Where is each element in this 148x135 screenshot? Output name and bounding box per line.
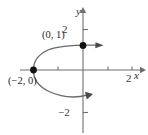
parabola-upper-branch <box>33 45 99 70</box>
point-label-neg2-0: (−2, 0) <box>8 76 37 87</box>
y-tick-label-negative-2: −2 <box>58 107 70 118</box>
parabola-upper-arrowhead-icon <box>95 42 103 48</box>
x-axis-arrowhead-icon <box>140 67 146 73</box>
y-axis-label: y <box>76 6 81 17</box>
parabola-lower-branch <box>33 70 87 97</box>
x-axis-label: x <box>134 70 139 81</box>
graph-canvas <box>0 0 148 135</box>
parabola-figure: y x 2 −2 2 (0, 1) (−2, 0) <box>0 0 148 135</box>
point-label-0-1: (0, 1) <box>42 30 65 41</box>
parabola-lower-arrowhead-icon <box>85 92 93 100</box>
point-marker-0-1 <box>80 42 87 49</box>
x-tick-label-2: 2 <box>126 73 132 84</box>
point-marker-neg2-0 <box>30 67 37 74</box>
